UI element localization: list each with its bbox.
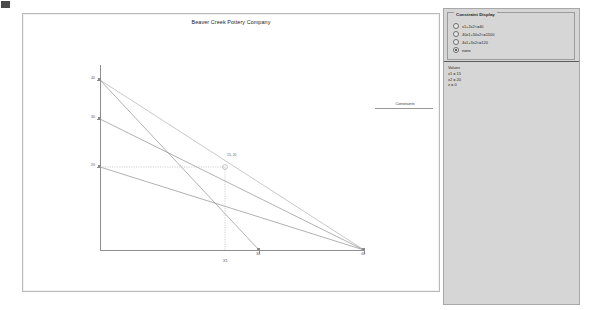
side-panel: Constraint Display x1+2x2<=40 40x1+50x2<…	[443, 8, 580, 305]
legend-label: Constraints	[375, 102, 435, 106]
panel-divider	[444, 61, 579, 62]
x-axis-caption: X1	[223, 259, 228, 263]
y-tick-label-30: 30	[91, 115, 95, 119]
chart-window: Beaver Creek Pottery Company 40 30 20 30…	[22, 13, 440, 292]
radio-constraint-none-label: none	[462, 48, 471, 53]
y-tick-30	[97, 119, 101, 120]
plot-area: 40 30 20 30 40 X1	[23, 14, 439, 291]
radio-icon	[453, 31, 459, 37]
x-axis	[100, 250, 365, 251]
constraint-display-title: Constraint Display	[454, 12, 497, 17]
chart-legend: Constraints	[375, 102, 435, 109]
radio-constraint-1-label: x1+2x2<=40	[462, 24, 484, 29]
radio-constraint-none[interactable]: none	[453, 46, 571, 54]
radio-constraint-2[interactable]: 40x1+50x2<=1500	[453, 30, 571, 38]
corner-artifact	[1, 1, 10, 8]
x-tick-label-40: 40	[361, 252, 365, 256]
radio-constraint-1[interactable]: x1+2x2<=40	[453, 22, 571, 30]
radio-constraint-2-label: 40x1+50x2<=1500	[462, 32, 494, 37]
y-axis	[100, 65, 101, 250]
solution-point-label: 15, 20	[227, 153, 236, 157]
constraint-display-group: Constraint Display x1+2x2<=40 40x1+50x2<…	[447, 12, 575, 60]
x-tick-label-30: 30	[256, 252, 260, 256]
constraint-radio-list: x1+2x2<=40 40x1+50x2<=1500 4x1+3x2<=120 …	[453, 22, 571, 54]
legend-rule	[375, 108, 433, 109]
value-z: z = 0	[448, 82, 573, 88]
radio-icon	[453, 23, 459, 29]
application-root: Beaver Creek Pottery Company 40 30 20 30…	[0, 0, 592, 310]
radio-constraint-3-label: 4x1+3x2<=120	[462, 40, 488, 45]
radio-constraint-3[interactable]: 4x1+3x2<=120	[453, 38, 571, 46]
radio-icon-selected	[453, 47, 459, 53]
values-section: Values x1 = 15 x2 = 20 z = 0	[448, 65, 573, 88]
radio-icon	[453, 39, 459, 45]
values-title: Values	[448, 65, 573, 70]
y-tick-label-20: 20	[91, 163, 95, 167]
y-tick-20	[97, 167, 101, 168]
y-tick-40	[97, 80, 101, 81]
y-tick-label-40: 40	[91, 76, 95, 80]
